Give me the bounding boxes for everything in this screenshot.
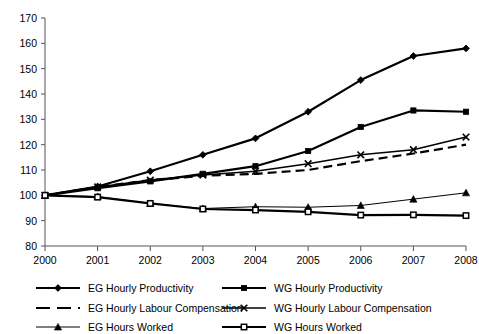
marker-diamond bbox=[147, 168, 154, 175]
marker-open-square bbox=[42, 193, 47, 198]
marker-open-square bbox=[200, 206, 205, 211]
chart-figure: 8090100110120130140150160170 20002001200… bbox=[0, 0, 479, 334]
y-axis-tick-label: 90 bbox=[25, 215, 37, 227]
x-axis-tick-label: 2008 bbox=[454, 254, 478, 266]
marker-square bbox=[306, 148, 311, 153]
line-chart-canvas: 8090100110120130140150160170 20002001200… bbox=[0, 0, 479, 334]
x-axis-tick-label: 2006 bbox=[349, 254, 373, 266]
y-axis-tick-label: 130 bbox=[19, 113, 37, 125]
x-axis-tick-label: 2002 bbox=[139, 254, 163, 266]
series-eg-hourly-productivity bbox=[42, 45, 470, 199]
y-axis: 8090100110120130140150160170 bbox=[19, 12, 45, 252]
legend-item-label: WG Hourly Productivity bbox=[274, 282, 383, 294]
legend-item-label: EG Hours Worked bbox=[88, 321, 173, 333]
legend-item[interactable]: EG Hourly Productivity bbox=[36, 282, 194, 294]
marker-open-square bbox=[305, 209, 310, 214]
legend-item[interactable]: WG Hourly Productivity bbox=[222, 282, 383, 294]
marker-square bbox=[463, 109, 468, 114]
y-axis-tick-label: 100 bbox=[19, 189, 37, 201]
legend-item-label: EG Hourly Labour Compensation bbox=[88, 302, 243, 314]
chart-legend: EG Hourly ProductivityWG Hourly Producti… bbox=[36, 282, 432, 333]
marker-open-square bbox=[148, 201, 153, 206]
legend-item[interactable]: WG Hourly Labour Compensation bbox=[222, 302, 432, 314]
x-axis-tick-label: 2003 bbox=[191, 254, 215, 266]
x-axis-tick-label: 2004 bbox=[244, 254, 268, 266]
legend-item-label: WG Hourly Labour Compensation bbox=[274, 302, 432, 314]
y-axis-tick-label: 140 bbox=[19, 88, 37, 100]
marker-open-square bbox=[411, 212, 416, 217]
y-axis-tick-label: 170 bbox=[19, 12, 37, 24]
y-axis-tick-label: 150 bbox=[19, 63, 37, 75]
marker-diamond bbox=[55, 285, 62, 292]
y-axis-tick-label: 120 bbox=[19, 139, 37, 151]
x-axis-tick-label: 2001 bbox=[86, 254, 110, 266]
data-series-group bbox=[41, 45, 469, 218]
marker-square bbox=[253, 164, 258, 169]
legend-item-label: EG Hourly Productivity bbox=[88, 282, 194, 294]
marker-diamond bbox=[199, 151, 206, 158]
marker-open-square bbox=[95, 194, 100, 199]
legend-item[interactable]: WG Hours Worked bbox=[222, 321, 362, 333]
legend-item[interactable]: EG Hourly Labour Compensation bbox=[36, 302, 243, 314]
x-axis-tick-label: 2007 bbox=[402, 254, 426, 266]
marker-triangle bbox=[462, 189, 469, 196]
marker-open-square bbox=[463, 213, 468, 218]
marker-diamond bbox=[410, 53, 417, 60]
legend-item-label: WG Hours Worked bbox=[274, 321, 362, 333]
legend-item[interactable]: EG Hours Worked bbox=[36, 321, 173, 333]
x-axis: 200020012002200320042005200620072008 bbox=[33, 246, 478, 266]
marker-open-square bbox=[241, 324, 246, 329]
marker-diamond bbox=[463, 45, 470, 52]
y-axis-tick-label: 110 bbox=[20, 164, 37, 176]
x-axis-tick-label: 2000 bbox=[33, 254, 57, 266]
y-axis-tick-label: 160 bbox=[19, 37, 37, 49]
marker-square bbox=[241, 285, 246, 290]
marker-open-square bbox=[358, 212, 363, 217]
marker-square bbox=[411, 108, 416, 113]
marker-open-square bbox=[253, 207, 258, 212]
x-axis-tick-label: 2005 bbox=[296, 254, 320, 266]
y-axis-tick-label: 80 bbox=[25, 240, 37, 252]
marker-square bbox=[358, 124, 363, 129]
